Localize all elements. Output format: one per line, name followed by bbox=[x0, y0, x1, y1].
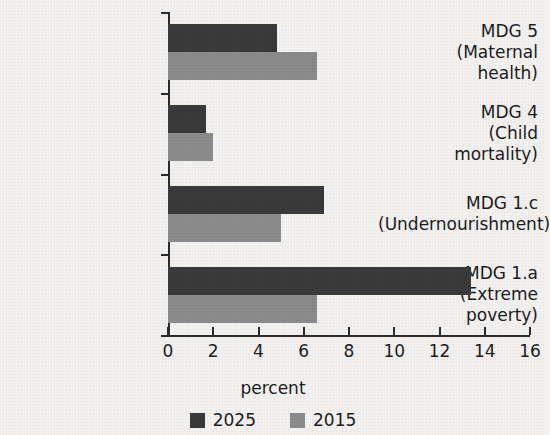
category-label-0: MDG 5(Maternalhealth) bbox=[378, 21, 546, 84]
x-tick-label: 8 bbox=[329, 341, 369, 361]
category-label-2: MDG 1.c(Undernourishment) bbox=[378, 193, 546, 235]
x-axis-line bbox=[168, 335, 530, 337]
legend-swatch-icon bbox=[190, 413, 205, 428]
x-tick-label: 2 bbox=[193, 341, 233, 361]
category-label-line: MDG 4 bbox=[378, 102, 538, 123]
category-label-line: (Child bbox=[378, 123, 538, 144]
bar-2015-3 bbox=[168, 295, 317, 323]
x-tick-label: 0 bbox=[148, 341, 188, 361]
x-tick-label: 4 bbox=[239, 341, 279, 361]
legend-swatch-icon bbox=[290, 413, 305, 428]
category-label-line: mortality) bbox=[378, 144, 538, 165]
category-label-line: MDG 5 bbox=[378, 21, 538, 42]
chart-legend: 20252015 bbox=[0, 410, 546, 430]
bar-2025-1 bbox=[168, 105, 206, 133]
y-tick bbox=[161, 93, 168, 95]
x-tick bbox=[258, 327, 260, 335]
x-tick bbox=[303, 327, 305, 335]
legend-label: 2025 bbox=[213, 410, 256, 430]
legend-label: 2015 bbox=[313, 410, 356, 430]
category-label-line: (Undernourishment) bbox=[378, 214, 538, 235]
x-tick-label: 14 bbox=[465, 341, 505, 361]
legend-entry-2025[interactable]: 2025 bbox=[190, 410, 256, 430]
bar-2025-3 bbox=[168, 267, 471, 295]
y-tick bbox=[161, 174, 168, 176]
x-tick bbox=[393, 327, 395, 335]
x-tick bbox=[348, 327, 350, 335]
bar-2025-0 bbox=[168, 24, 277, 52]
category-label-line: poverty) bbox=[378, 305, 538, 326]
x-tick-label: 16 bbox=[510, 341, 550, 361]
x-axis-title: percent bbox=[0, 378, 546, 398]
bar-2015-0 bbox=[168, 52, 317, 80]
category-label-line: (Maternal bbox=[378, 42, 538, 63]
x-tick bbox=[212, 327, 214, 335]
bar-2015-1 bbox=[168, 133, 213, 161]
legend-entry-2015[interactable]: 2015 bbox=[290, 410, 356, 430]
bar-2025-2 bbox=[168, 186, 324, 214]
category-label-line: health) bbox=[378, 63, 538, 84]
bar-2015-2 bbox=[168, 214, 281, 242]
x-tick bbox=[529, 327, 531, 335]
category-label-line: MDG 1.c bbox=[378, 193, 538, 214]
category-label-1: MDG 4(Childmortality) bbox=[378, 102, 546, 165]
x-tick-label: 12 bbox=[420, 341, 460, 361]
x-tick-label: 10 bbox=[374, 341, 414, 361]
y-tick bbox=[161, 254, 168, 256]
x-tick bbox=[439, 327, 441, 335]
x-tick bbox=[484, 327, 486, 335]
x-tick bbox=[167, 327, 169, 335]
y-tick bbox=[161, 12, 168, 14]
x-tick-label: 6 bbox=[284, 341, 324, 361]
y-tick bbox=[161, 335, 168, 337]
